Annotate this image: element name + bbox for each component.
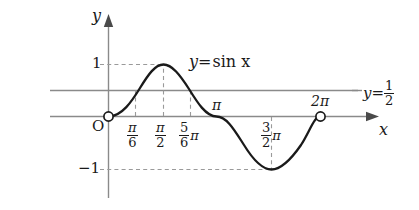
- x-tick-three-pi-over-2-suffix: π: [271, 129, 281, 142]
- y-axis-arrowhead: [104, 14, 113, 27]
- curve-label-equals: =: [198, 52, 211, 71]
- line-label-denominator: 2: [384, 93, 394, 108]
- x-tick-label-three-pi-over-2: 3 2 π: [261, 121, 281, 149]
- x-crossing-label-two-pi: 2π: [311, 94, 329, 108]
- x-crossing-label-pi: π: [212, 98, 221, 112]
- line-label-numerator: 1: [384, 79, 394, 93]
- origin-label: O: [92, 119, 104, 134]
- sine-graph-figure: y x O 1 −1 π 6 π 2 5 6 π 3 2 π π 2π: [0, 0, 419, 210]
- x-tick-five-pi-over-6-numerator: 5: [179, 121, 189, 135]
- x-axis-arrowhead: [366, 112, 379, 121]
- graph-canvas: [0, 0, 419, 210]
- y-axis-label: y: [92, 8, 101, 24]
- line-label-equals: =: [371, 86, 384, 101]
- y-tick-label-minus-1: −1: [78, 161, 100, 176]
- x-tick-five-pi-over-6-denominator: 6: [179, 135, 189, 150]
- open-point-origin: [104, 112, 113, 121]
- x-axis-label: x: [379, 122, 388, 138]
- x-tick-label-pi-over-2: π 2: [155, 121, 166, 149]
- line-label-y-equals-half: y= 1 2: [363, 79, 394, 107]
- line-label-lhs: y: [363, 86, 371, 101]
- x-tick-pi-over-2-numerator: π: [155, 121, 166, 135]
- x-tick-pi-over-6-numerator: π: [127, 121, 138, 135]
- x-tick-three-pi-over-2-denominator: 2: [261, 135, 271, 150]
- open-point-two-pi: [316, 112, 325, 121]
- x-tick-label-five-pi-over-6: 5 6 π: [179, 121, 199, 149]
- x-tick-five-pi-over-6-suffix: π: [189, 129, 199, 142]
- curve-label-rhs: sin x: [211, 52, 250, 71]
- x-tick-pi-over-2-denominator: 2: [155, 135, 166, 150]
- y-tick-label-1: 1: [92, 56, 102, 71]
- x-tick-pi-over-6-denominator: 6: [127, 135, 138, 150]
- curve-label-y-equals-sin-x: y=sin x: [189, 54, 250, 70]
- x-tick-label-pi-over-6: π 6: [127, 121, 138, 149]
- curve-label-lhs: y: [189, 52, 198, 71]
- x-tick-three-pi-over-2-numerator: 3: [261, 121, 271, 135]
